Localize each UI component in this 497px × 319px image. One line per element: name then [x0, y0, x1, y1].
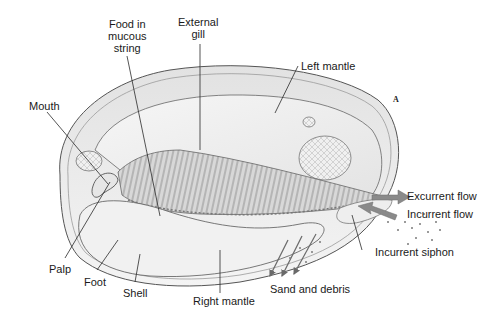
label-shell: Shell	[123, 287, 147, 299]
label-line: mucous	[108, 30, 147, 42]
label-palp: Palp	[49, 263, 71, 275]
label-external-gill: External gill	[178, 16, 218, 40]
label-line: string	[108, 42, 147, 54]
label-sand-and-debris: Sand and debris	[270, 283, 350, 295]
label-right-mantle: Right mantle	[193, 295, 255, 307]
label-foot: Foot	[84, 276, 106, 288]
label-left-mantle: Left mantle	[301, 60, 355, 72]
label-food-in-mucous-string: Food in mucous string	[108, 18, 147, 54]
posterior-adductor	[299, 136, 351, 180]
clam-illustration	[0, 0, 497, 319]
panel-letter: A	[393, 95, 399, 104]
posterior-adductor-small	[303, 117, 315, 127]
label-incurrent-flow: Incurrent flow	[407, 208, 473, 220]
clam-diagram: Food in mucous string External gill Left…	[0, 0, 497, 319]
label-line: Food in	[108, 18, 147, 30]
label-incurrent-siphon: Incurrent siphon	[375, 246, 454, 258]
label-excurrent-flow: Excurrent flow	[407, 190, 477, 202]
label-line: gill	[178, 28, 218, 40]
label-mouth: Mouth	[29, 100, 60, 112]
label-line: External	[178, 16, 218, 28]
